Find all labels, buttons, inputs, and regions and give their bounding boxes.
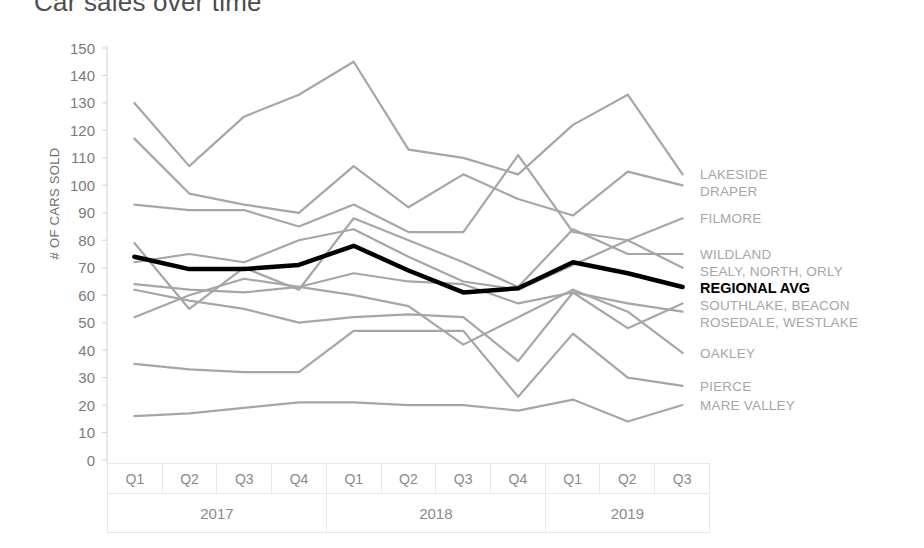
x-axis-quarter-cell: Q4 — [491, 464, 546, 494]
x-axis-year-cell: 2018 — [326, 494, 545, 533]
x-axis-quarter-cell: Q1 — [545, 464, 600, 494]
series-label: DRAPER — [700, 184, 758, 199]
x-axis-year-cell: 2017 — [108, 494, 327, 533]
x-axis-quarter-cell: Q3 — [217, 464, 272, 494]
series-line — [134, 155, 682, 240]
chart-root: Car sales over time # OF CARS SOLD 15014… — [0, 0, 924, 548]
series-label: ROSEDALE, WESTLAKE — [700, 315, 858, 330]
y-axis-tick-label: 70 — [78, 259, 95, 276]
x-axis-quarter-row: Q1Q2Q3Q4Q1Q2Q3Q4Q1Q2Q3 — [108, 464, 710, 494]
y-axis-tick-label: 30 — [78, 369, 95, 386]
series-label: REGIONAL AVG — [700, 280, 810, 296]
x-axis-quarter-cell: Q1 — [108, 464, 163, 494]
series-label: SEALY, NORTH, ORLY — [700, 264, 843, 279]
y-axis-tick-label: 90 — [78, 204, 95, 221]
y-axis-tick-label: 110 — [71, 149, 95, 166]
series-label: SOUTHLAKE, BEACON — [700, 298, 850, 313]
series-line — [134, 400, 682, 422]
series-line — [134, 62, 682, 175]
x-axis-year-row: 201720182019 — [108, 494, 710, 533]
y-axis-tick-label: 0 — [87, 452, 95, 469]
series-label: OAKLEY — [700, 346, 755, 361]
series-line — [134, 279, 682, 353]
series-label: FILMORE — [700, 211, 761, 226]
x-axis-quarter-cell: Q4 — [272, 464, 327, 494]
y-axis-tick-label: 120 — [70, 122, 95, 139]
x-axis-quarter-cell: Q1 — [326, 464, 381, 494]
x-axis-year-cell: 2019 — [545, 494, 709, 533]
y-axis-tick-label: 50 — [78, 314, 95, 331]
series-label: PIERCE — [700, 379, 751, 394]
y-axis-tick-label: 60 — [78, 287, 95, 304]
series-line — [134, 331, 682, 397]
y-axis-tick-label: 130 — [70, 94, 95, 111]
y-axis-tick-label: 150 — [70, 40, 95, 57]
x-axis-quarter-cell: Q2 — [162, 464, 217, 494]
x-axis-quarter-cell: Q2 — [381, 464, 436, 494]
x-axis-quarter-cell: Q3 — [655, 464, 710, 494]
series-label: WILDLAND — [700, 247, 771, 262]
y-axis-tick-label: 40 — [78, 342, 95, 359]
y-axis-tick-label: 100 — [70, 177, 95, 194]
series-label: MARE VALLEY — [700, 398, 795, 413]
y-axis-tick-label: 10 — [78, 424, 95, 441]
series-label: LAKESIDE — [700, 167, 768, 182]
x-axis-quarter-cell: Q3 — [436, 464, 491, 494]
y-axis-tick-label: 140 — [70, 67, 95, 84]
y-axis-tick-label: 80 — [78, 232, 95, 249]
x-axis-table: Q1Q2Q3Q4Q1Q2Q3Q4Q1Q2Q3 201720182019 — [107, 463, 710, 533]
y-axis-tick-label: 20 — [78, 397, 95, 414]
x-axis-quarter-cell: Q2 — [600, 464, 655, 494]
